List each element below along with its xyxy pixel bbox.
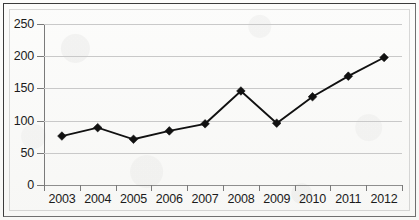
x-tick-1 (80, 185, 81, 191)
y-tick-50 (37, 153, 44, 154)
data-point-2011 (344, 72, 353, 81)
x-tick-5 (223, 185, 224, 191)
x-tick-0 (44, 185, 45, 191)
data-point-2006 (165, 127, 174, 136)
y-tick-label-200: 200 (0, 49, 34, 63)
x-tick-label-2009: 2009 (263, 192, 290, 206)
data-point-2004 (93, 123, 102, 132)
y-tick-200 (37, 56, 44, 57)
x-tick-label-2006: 2006 (156, 192, 183, 206)
x-tick-2 (116, 185, 117, 191)
y-tick-label-250: 250 (0, 17, 34, 31)
y-tick-label-100: 100 (0, 114, 34, 128)
y-tick-label-150: 150 (0, 81, 34, 95)
x-tick-label-2005: 2005 (120, 192, 147, 206)
y-tick-250 (37, 24, 44, 25)
y-tick-100 (37, 121, 44, 122)
x-tick-label-2004: 2004 (84, 192, 111, 206)
plot-area (44, 24, 402, 185)
y-tick-150 (37, 88, 44, 89)
x-tick-label-2003: 2003 (48, 192, 75, 206)
series-polyline (62, 57, 384, 139)
data-point-2003 (58, 132, 67, 141)
data-point-2012 (380, 53, 389, 62)
x-tick-label-2011: 2011 (335, 192, 361, 206)
x-tick-10 (402, 185, 403, 191)
x-tick-label-2010: 2010 (299, 192, 326, 206)
line-series (44, 24, 402, 185)
x-tick-3 (151, 185, 152, 191)
y-tick-label-50: 50 (0, 146, 34, 160)
x-tick-8 (330, 185, 331, 191)
x-tick-7 (295, 185, 296, 191)
y-tick-0 (37, 185, 44, 186)
x-tick-4 (187, 185, 188, 191)
x-tick-label-2008: 2008 (227, 192, 254, 206)
x-tick-9 (366, 185, 367, 191)
y-tick-label-0: 0 (0, 178, 34, 192)
x-tick-label-2007: 2007 (192, 192, 219, 206)
chart-figure: 050100150200250 200320042005200620072008… (0, 0, 419, 220)
data-point-2005 (129, 135, 138, 144)
x-tick-label-2012: 2012 (371, 192, 398, 206)
x-tick-6 (259, 185, 260, 191)
